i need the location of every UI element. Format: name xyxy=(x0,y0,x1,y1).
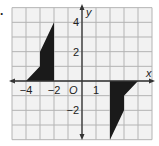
y-tick-label: 2 xyxy=(73,46,79,58)
coordinate-plane: −4−2142−2 x y O xyxy=(0,0,159,146)
x-axis-label: x xyxy=(145,67,152,79)
y-tick-label: −2 xyxy=(66,104,79,116)
x-tick-label: −4 xyxy=(20,84,33,96)
y-tick-label: 4 xyxy=(73,16,79,28)
x-tick-label: −2 xyxy=(48,84,61,96)
x-tick-label: 1 xyxy=(93,84,99,96)
y-axis-arrow-up-icon xyxy=(80,4,85,10)
origin-label: O xyxy=(69,84,78,96)
